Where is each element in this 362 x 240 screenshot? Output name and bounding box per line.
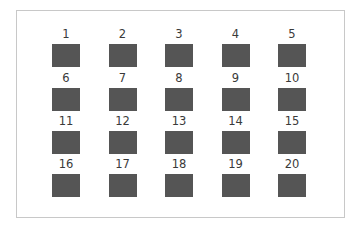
square-16[interactable]: [52, 174, 80, 197]
square-18[interactable]: [165, 174, 193, 197]
cell-number-label: 18: [155, 157, 203, 171]
square-11[interactable]: [52, 131, 80, 154]
cell-number-label: 19: [212, 157, 260, 171]
cell-number-label: 17: [99, 157, 147, 171]
cell-number-label: 20: [268, 157, 316, 171]
square-2[interactable]: [109, 44, 137, 67]
square-9[interactable]: [222, 88, 250, 111]
cell-number-label: 1: [42, 27, 90, 41]
cell-number-label: 5: [268, 27, 316, 41]
cell-number-label: 12: [99, 114, 147, 128]
cell-number-label: 6: [42, 71, 90, 85]
square-8[interactable]: [165, 88, 193, 111]
square-17[interactable]: [109, 174, 137, 197]
cell-number-label: 8: [155, 71, 203, 85]
square-1[interactable]: [52, 44, 80, 67]
square-4[interactable]: [222, 44, 250, 67]
cell-number-label: 2: [99, 27, 147, 41]
square-7[interactable]: [109, 88, 137, 111]
square-12[interactable]: [109, 131, 137, 154]
square-13[interactable]: [165, 131, 193, 154]
square-20[interactable]: [278, 174, 306, 197]
square-6[interactable]: [52, 88, 80, 111]
square-3[interactable]: [165, 44, 193, 67]
square-10[interactable]: [278, 88, 306, 111]
square-19[interactable]: [222, 174, 250, 197]
cell-number-label: 9: [212, 71, 260, 85]
cell-number-label: 13: [155, 114, 203, 128]
cell-number-label: 14: [212, 114, 260, 128]
square-14[interactable]: [222, 131, 250, 154]
square-5[interactable]: [278, 44, 306, 67]
cell-number-label: 7: [99, 71, 147, 85]
cell-number-label: 10: [268, 71, 316, 85]
square-15[interactable]: [278, 131, 306, 154]
cell-number-label: 3: [155, 27, 203, 41]
cell-number-label: 11: [42, 114, 90, 128]
cell-number-label: 4: [212, 27, 260, 41]
cell-number-label: 16: [42, 157, 90, 171]
cell-number-label: 15: [268, 114, 316, 128]
